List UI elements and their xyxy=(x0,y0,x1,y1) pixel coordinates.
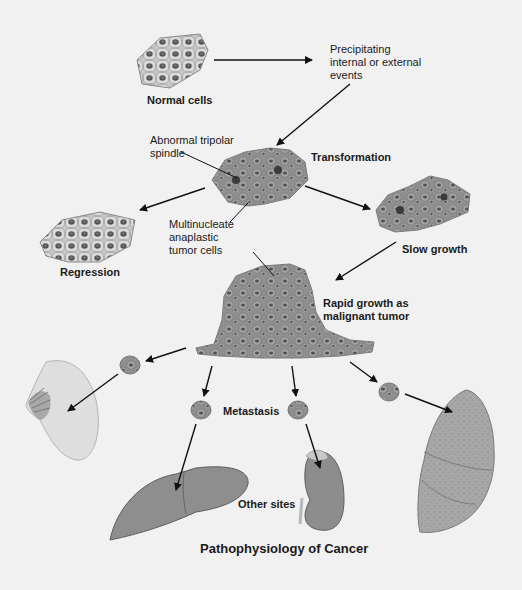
label-slow-growth: Slow growth xyxy=(402,243,467,256)
label-precipitating-events: Precipitating internal or external event… xyxy=(330,43,421,82)
label-metastasis: Metastasis xyxy=(223,405,279,418)
arrow-precipitating-to-transformation xyxy=(277,84,350,145)
label-multinucleate-line2: anaplastic xyxy=(169,231,234,244)
label-regression: Regression xyxy=(60,266,120,279)
normal-cells-illustration xyxy=(137,34,208,88)
label-precipitating-line1: Precipitating xyxy=(330,43,421,56)
label-transformation: Transformation xyxy=(311,151,391,164)
metastatic-cluster-1 xyxy=(120,356,140,374)
label-multinucleate-line1: Multinucleate xyxy=(169,218,234,231)
label-rapid-growth-line1: Rapid growth as xyxy=(323,297,409,310)
arrow-slow-growth-to-rapid xyxy=(336,242,396,280)
label-rapid-growth: Rapid growth as malignant tumor xyxy=(323,297,409,323)
label-abnormal-spindle-line1: Abnormal tripolar xyxy=(150,134,234,147)
arrow-tumor-to-cluster-1 xyxy=(146,348,186,361)
diagram-title: Pathophysiology of Cancer xyxy=(200,542,368,555)
arrow-transformation-to-regression xyxy=(140,188,205,210)
breast-illustration xyxy=(26,361,98,460)
label-abnormal-spindle-line2: spindle xyxy=(150,147,234,160)
label-multinucleate: Multinucleate anaplastic tumor cells xyxy=(169,218,234,257)
metastatic-cluster-3 xyxy=(288,401,308,419)
slow-growth-cells-illustration xyxy=(376,176,470,232)
metastatic-cluster-4 xyxy=(379,383,399,401)
label-other-sites: Other sites xyxy=(238,498,295,511)
label-multinucleate-line3: tumor cells xyxy=(169,244,234,257)
lung-illustration xyxy=(418,390,494,533)
arrow-tumor-to-cluster-3 xyxy=(292,366,296,396)
label-normal-cells: Normal cells xyxy=(147,94,212,107)
label-precipitating-line2: internal or external xyxy=(330,56,421,69)
arrow-tumor-to-cluster-4 xyxy=(350,362,377,382)
arrow-transformation-to-slow-growth xyxy=(305,186,370,209)
arrow-tumor-to-cluster-2 xyxy=(204,366,212,396)
metastatic-cluster-2 xyxy=(191,401,211,419)
kidney-illustration xyxy=(300,450,344,530)
label-rapid-growth-line2: malignant tumor xyxy=(323,310,409,323)
label-precipitating-line3: events xyxy=(330,69,421,82)
regression-cells-illustration xyxy=(40,212,135,262)
label-abnormal-spindle: Abnormal tripolar spindle xyxy=(150,134,234,160)
arrow-cluster-4-to-lung xyxy=(405,394,452,412)
